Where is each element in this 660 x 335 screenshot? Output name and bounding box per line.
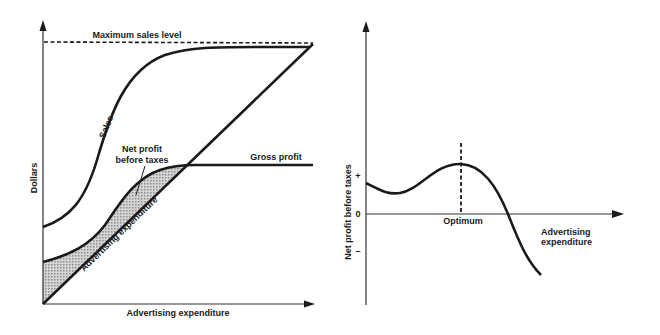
- net-profit-label-line2: before taxes: [115, 155, 168, 165]
- x-axis-label-line2: expenditure: [541, 237, 592, 247]
- right-chart: + 0 – Optimum Net profit before taxes Ad…: [343, 21, 624, 305]
- x-axis-label-line1: Advertising: [541, 227, 591, 237]
- x-axis-arrow-icon: [612, 210, 624, 218]
- figure-canvas: Maximum sales level Sales Net profit bef…: [0, 0, 660, 335]
- y-axis-arrow-icon: [40, 20, 47, 31]
- sales-label: Sales: [97, 114, 115, 140]
- y-tick-zero: 0: [355, 209, 360, 219]
- max-sales-label: Maximum sales level: [92, 30, 181, 40]
- y-axis-label: Net profit before taxes: [343, 164, 353, 260]
- sales-curve: [43, 47, 309, 227]
- gross-profit-label: Gross profit: [250, 152, 302, 162]
- max-sales-line: [44, 42, 313, 43]
- x-axis-label: Advertising expenditure: [126, 308, 229, 318]
- optimum-label: Optimum: [443, 216, 483, 226]
- left-chart: Maximum sales level Sales Net profit bef…: [29, 20, 315, 318]
- net-profit-label-line1: Net profit: [122, 144, 162, 154]
- y-axis-arrow-icon: [363, 21, 370, 32]
- x-axis-arrow-icon: [304, 301, 315, 308]
- y-tick-plus: +: [355, 171, 360, 181]
- y-tick-minus: –: [355, 246, 360, 256]
- y-axis-label: Dollars: [29, 163, 39, 194]
